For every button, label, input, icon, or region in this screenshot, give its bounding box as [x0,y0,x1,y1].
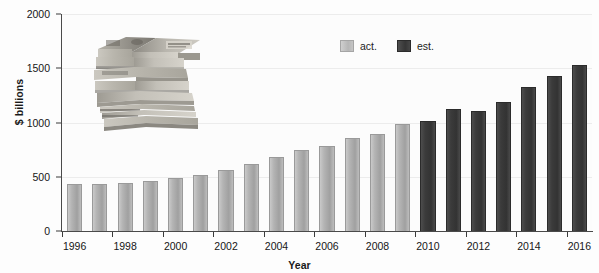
x-axis-tick-label: 2014 [517,240,540,252]
bar-chart: $ billions 0500100015002000 [0,0,599,273]
x-axis-tick-mark [567,232,568,237]
stacked-banknote-bundles-photo [82,26,217,134]
y-axis-tick-label: 0 [4,225,50,237]
x-axis-tick-label: 2010 [416,240,439,252]
x-axis-tick-label: 2004 [265,240,288,252]
bar-2014 [521,87,536,231]
bar-2015 [547,76,562,231]
x-axis-line [61,231,593,232]
bar-2012 [471,111,486,231]
bar-2006 [319,146,334,231]
x-axis-tick-mark [466,232,467,237]
x-axis-tick-mark [163,232,164,237]
x-axis-tick-mark [213,232,214,237]
legend-item-est: est. [397,40,434,52]
bar-2010 [420,121,435,231]
x-axis-tick-mark [516,232,517,237]
y-axis-tick-labels: 0500100015002000 [0,0,60,273]
bar-1998 [118,183,133,231]
x-axis-tick-mark [314,232,315,237]
bar-2001 [193,175,208,231]
x-axis-tick-label: 2006 [315,240,338,252]
legend-label-est: est. [417,40,434,52]
x-axis-tick-label: 2002 [214,240,237,252]
x-axis-tick-label: 2016 [568,240,591,252]
x-axis-tick-mark [365,232,366,237]
legend-item-act: act. [340,40,377,52]
x-axis-tick-mark [264,232,265,237]
bar-1997 [92,184,107,231]
x-axis-tick-mark [112,232,113,237]
x-axis-title: Year [0,259,599,271]
x-axis-tick-mark [62,232,63,237]
x-axis-tick-label: 1996 [63,240,86,252]
y-axis-tick-label: 500 [4,171,50,183]
bar-2011 [446,109,461,231]
x-axis-tick-label: 2012 [467,240,490,252]
x-axis-tick-mark [415,232,416,237]
bar-2016 [572,65,587,231]
bar-2005 [294,150,309,231]
y-axis-tick-label: 1000 [4,117,50,129]
bar-1999 [143,181,158,231]
y-axis-tick-label: 1500 [4,62,50,74]
y-axis-tick-label: 2000 [4,8,50,20]
x-axis-tick-label: 2008 [366,240,389,252]
bar-2008 [370,134,385,231]
dark-gray-swatch-icon [397,40,411,52]
x-axis-tick-label: 1998 [113,240,136,252]
light-gray-swatch-icon [340,40,354,52]
bar-2007 [345,138,360,231]
bar-1996 [67,184,82,231]
legend: act. est. [340,40,434,52]
bar-2004 [269,157,284,231]
bar-2013 [496,102,511,231]
bar-2002 [218,170,233,231]
x-axis-tick-label: 2000 [164,240,187,252]
bar-2009 [395,124,410,231]
bar-2000 [168,178,183,231]
legend-label-act: act. [360,40,377,52]
bar-2003 [244,164,259,231]
